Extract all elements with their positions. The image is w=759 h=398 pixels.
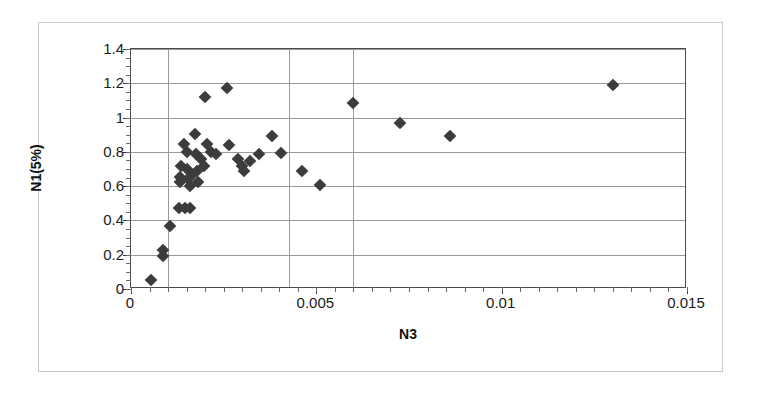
x-tick-mark-minor xyxy=(298,287,299,292)
y-tick-mark-minor xyxy=(126,135,131,136)
x-tick-label: 0.01 xyxy=(486,294,515,311)
y-tick-mark-minor xyxy=(126,58,131,59)
x-tick-mark-minor xyxy=(520,287,521,292)
y-tick-mark-minor xyxy=(126,238,131,239)
x-tick-mark-minor xyxy=(483,287,484,292)
x-tick-mark-minor xyxy=(576,287,577,292)
x-tick-mark-minor xyxy=(409,287,410,292)
data-point xyxy=(164,220,177,233)
y-tick-mark-minor xyxy=(126,178,131,179)
y-tick-mark-minor xyxy=(126,272,131,273)
y-tick-mark-minor xyxy=(126,246,131,247)
y-tick-mark-minor xyxy=(126,100,131,101)
y-tick-mark-minor xyxy=(126,169,131,170)
x-tick-mark-minor xyxy=(335,287,336,292)
y-tick-mark-minor xyxy=(126,255,131,256)
y-tick-mark-minor xyxy=(126,143,131,144)
y-tick-mark-minor xyxy=(126,212,131,213)
y-tick-mark-minor xyxy=(126,49,131,50)
y-tick-mark-minor xyxy=(126,109,131,110)
y-tick-label: 1 xyxy=(84,108,124,125)
y-tick-label: 0.4 xyxy=(84,211,124,228)
y-tick-mark-minor xyxy=(126,280,131,281)
scatter-plot-figure: 00.20.40.60.811.21.4 00.0050.010.015 N3 … xyxy=(0,0,759,398)
x-tick-mark-minor xyxy=(631,287,632,292)
gridline-horizontal xyxy=(131,220,685,221)
x-tick-mark-minor xyxy=(279,287,280,292)
y-tick-label: 1.4 xyxy=(84,40,124,57)
gridline-vertical xyxy=(168,49,169,287)
y-tick-mark-minor xyxy=(126,118,131,119)
x-tick-mark-minor xyxy=(224,287,225,292)
gridline-vertical xyxy=(353,49,354,287)
x-tick-mark-minor xyxy=(353,287,354,292)
data-point xyxy=(188,127,201,140)
y-tick-mark-minor xyxy=(126,160,131,161)
y-tick-label: 0.6 xyxy=(84,177,124,194)
x-tick-mark-minor xyxy=(187,287,188,292)
gridline-horizontal xyxy=(131,83,685,84)
data-point xyxy=(347,97,360,110)
data-point xyxy=(223,139,236,152)
x-tick-mark-minor xyxy=(446,287,447,292)
y-tick-mark-minor xyxy=(126,92,131,93)
x-tick-mark-minor xyxy=(613,287,614,292)
x-axis-tick-labels: 00.0050.010.015 xyxy=(130,294,686,316)
x-tick-mark-minor xyxy=(650,287,651,292)
x-axis-title: N3 xyxy=(130,326,686,342)
data-point xyxy=(443,130,456,143)
x-tick-mark-minor xyxy=(150,287,151,292)
y-tick-label: 0.8 xyxy=(84,142,124,159)
data-point xyxy=(314,179,327,192)
gridline-horizontal xyxy=(131,255,685,256)
x-tick-mark-minor xyxy=(390,287,391,292)
y-tick-mark-minor xyxy=(126,83,131,84)
x-tick-mark-minor xyxy=(687,287,688,292)
x-tick-label: 0 xyxy=(126,294,134,311)
y-tick-label: 0.2 xyxy=(84,245,124,262)
x-tick-mark-minor xyxy=(242,287,243,292)
data-point xyxy=(265,130,278,143)
data-point xyxy=(275,146,288,159)
plot-area xyxy=(130,48,686,288)
data-point xyxy=(606,79,619,92)
x-tick-mark-minor xyxy=(668,287,669,292)
data-point xyxy=(144,273,157,286)
x-tick-mark-minor xyxy=(594,287,595,292)
data-point xyxy=(253,147,266,160)
data-point xyxy=(295,164,308,177)
y-tick-mark-minor xyxy=(126,229,131,230)
x-tick-mark-minor xyxy=(557,287,558,292)
y-tick-mark-minor xyxy=(126,220,131,221)
y-tick-mark-minor xyxy=(126,66,131,67)
data-point xyxy=(199,91,212,104)
y-tick-mark-minor xyxy=(126,75,131,76)
x-tick-mark-minor xyxy=(205,287,206,292)
x-tick-mark-minor xyxy=(372,287,373,292)
x-tick-label: 0.005 xyxy=(297,294,335,311)
x-tick-mark-minor xyxy=(316,287,317,292)
gridline-vertical xyxy=(289,49,290,287)
x-tick-mark-minor xyxy=(428,287,429,292)
y-tick-label: 1.2 xyxy=(84,74,124,91)
x-tick-mark-minor xyxy=(502,287,503,292)
gridline-horizontal xyxy=(131,118,685,119)
gridline-horizontal xyxy=(131,186,685,187)
y-tick-mark-minor xyxy=(126,263,131,264)
gridline-horizontal xyxy=(131,49,685,50)
x-tick-mark-minor xyxy=(168,287,169,292)
y-axis-title: N1(5%) xyxy=(28,144,44,191)
x-tick-mark-minor xyxy=(465,287,466,292)
x-tick-mark-minor xyxy=(539,287,540,292)
y-tick-mark-minor xyxy=(126,203,131,204)
y-tick-mark-minor xyxy=(126,195,131,196)
x-tick-label: 0.015 xyxy=(667,294,705,311)
y-tick-label: 0 xyxy=(84,280,124,297)
y-tick-mark-minor xyxy=(126,126,131,127)
y-tick-mark-minor xyxy=(126,152,131,153)
y-tick-mark-minor xyxy=(126,186,131,187)
x-tick-mark-minor xyxy=(131,287,132,292)
y-axis-tick-labels: 00.20.40.60.811.21.4 xyxy=(82,48,124,288)
x-tick-mark-minor xyxy=(261,287,262,292)
